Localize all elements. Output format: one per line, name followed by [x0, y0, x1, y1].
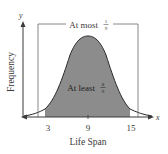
x-axis-left-arrow-icon	[21, 115, 27, 120]
y-axis-letter: y	[18, 11, 23, 20]
y-axis-title: Frequency	[6, 52, 16, 92]
x-tick-3: 3	[46, 123, 51, 133]
x-axis-letter: x	[155, 113, 160, 122]
shaded-region	[45, 36, 130, 117]
y-axis	[21, 21, 26, 117]
annotation-at-most-den: 9	[105, 26, 108, 31]
x-tick-9: 9	[86, 123, 91, 133]
annotation-at-most-num: 1	[105, 19, 108, 24]
annotation-at-most-text: At most	[69, 20, 98, 30]
x-tick-15: 15	[127, 123, 137, 133]
annotation-at-least-text: At least	[67, 83, 95, 93]
y-axis-arrow-icon	[21, 21, 26, 27]
x-axis-title: Life Span	[69, 137, 106, 147]
x-axis-arrow-icon	[148, 115, 154, 120]
annotation-at-most: At most 1 9	[69, 19, 108, 31]
chebyshev-chart: y x 3 9 15 Life Span Frequency At most 1…	[0, 0, 168, 154]
